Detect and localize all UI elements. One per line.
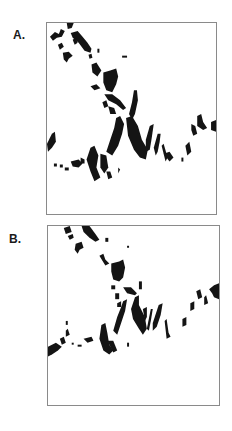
blob [196, 289, 202, 299]
blob [102, 100, 108, 108]
blob [126, 116, 148, 160]
blob [153, 303, 163, 331]
blob [91, 63, 101, 77]
blob [99, 254, 109, 266]
blob [89, 54, 93, 59]
blob [190, 301, 194, 311]
blob [68, 234, 74, 240]
blob [182, 317, 186, 327]
blob [60, 337, 66, 345]
blob [117, 301, 121, 307]
blob [103, 69, 118, 93]
panel-a-binary-map [47, 23, 216, 214]
blob [191, 124, 197, 136]
blob [100, 154, 108, 174]
panel-b-image [47, 225, 220, 406]
blob [197, 114, 207, 130]
blob [139, 281, 142, 289]
blob [75, 242, 84, 254]
blob [209, 283, 219, 299]
blob [64, 226, 72, 234]
blob [123, 287, 137, 295]
blob [58, 43, 64, 50]
blob [181, 158, 183, 162]
blob [72, 343, 74, 345]
blob [127, 343, 129, 347]
blob [50, 29, 65, 41]
blob [48, 343, 62, 357]
blob [147, 309, 153, 331]
blob [99, 323, 113, 355]
blob [211, 120, 216, 132]
blob [111, 260, 125, 282]
blob [105, 238, 108, 242]
blob [82, 226, 100, 242]
blob [129, 90, 138, 120]
blob [127, 246, 129, 248]
blob [204, 295, 208, 305]
blob [78, 345, 82, 347]
blob [66, 321, 68, 325]
panel-a-label: A. [13, 28, 25, 42]
blob [66, 329, 70, 337]
blob [106, 116, 124, 156]
blob [84, 337, 94, 343]
blob [67, 23, 74, 29]
blob [122, 56, 127, 58]
blob [60, 165, 63, 168]
blob [108, 106, 116, 114]
blob [165, 319, 171, 339]
blob [65, 167, 69, 170]
blob [63, 52, 73, 63]
blob [154, 134, 161, 156]
blob [115, 293, 119, 299]
blob [87, 146, 101, 182]
blob [47, 132, 56, 152]
blob [104, 94, 126, 110]
blob [106, 171, 112, 179]
blob [118, 167, 120, 173]
blob [185, 142, 191, 156]
blob [54, 164, 57, 167]
blob [146, 124, 154, 152]
blob [90, 84, 100, 90]
blob [111, 285, 115, 289]
blob [97, 49, 99, 53]
panel-b-label: B. [9, 232, 21, 246]
blob [81, 158, 85, 164]
panel-b-binary-map [48, 226, 219, 405]
panel-a-image [46, 22, 217, 215]
